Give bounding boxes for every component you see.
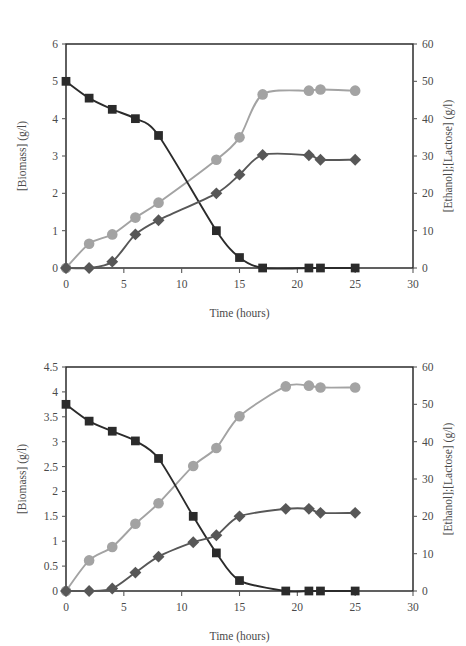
- y-axis-tick-label: 1.5: [44, 510, 59, 522]
- plot-frame: [66, 44, 413, 268]
- figure-root: 01234560102030405060051015202530Time (ho…: [0, 0, 466, 646]
- x-axis-tick-label: 10: [176, 601, 188, 613]
- data-point-circle: [107, 542, 118, 553]
- y2-axis-tick-label: 30: [422, 150, 434, 162]
- series-line: [66, 384, 355, 591]
- y-axis-tick-label: 5: [52, 75, 58, 87]
- data-point-circle: [84, 555, 95, 566]
- data-point-diamond: [315, 154, 327, 166]
- data-point-diamond: [257, 149, 269, 161]
- data-point-square: [85, 417, 94, 426]
- data-point-square: [281, 587, 290, 596]
- data-point-square: [258, 264, 267, 273]
- data-point-square: [108, 427, 117, 436]
- data-point-diamond: [315, 507, 327, 519]
- data-point-diamond: [187, 536, 199, 548]
- y2-axis-tick-label: 10: [422, 548, 434, 560]
- data-point-square: [235, 253, 244, 262]
- x-axis-tick-label: 20: [292, 601, 304, 613]
- data-point-circle: [315, 382, 326, 393]
- data-point-circle: [211, 443, 222, 454]
- series-line: [66, 154, 355, 269]
- y-axis-tick-label: 3.5: [44, 411, 59, 423]
- data-point-square: [212, 226, 221, 235]
- data-point-circle: [280, 381, 291, 392]
- y-axis-tick-label: 1: [52, 225, 58, 237]
- data-point-circle: [257, 89, 268, 100]
- y-axis-tick-label: 0.5: [44, 560, 59, 572]
- y2-axis-tick-label: 60: [422, 38, 434, 50]
- data-point-circle: [84, 238, 95, 249]
- y2-axis-tick-label: 20: [422, 510, 434, 522]
- data-point-diamond: [106, 583, 118, 595]
- data-point-square: [131, 114, 140, 123]
- data-point-circle: [107, 229, 118, 240]
- data-point-square: [316, 587, 325, 596]
- series-biomass: [60, 149, 361, 274]
- x-axis-tick-label: 0: [63, 601, 69, 613]
- y2-axis-tick-label: 0: [422, 262, 428, 274]
- data-point-diamond: [349, 154, 361, 166]
- y-axis-tick-label: 4: [52, 386, 58, 398]
- data-point-circle: [130, 212, 141, 223]
- chart-panel-top: 01234560102030405060051015202530Time (ho…: [0, 0, 466, 323]
- data-point-diamond: [349, 507, 361, 519]
- data-point-square: [131, 437, 140, 446]
- data-point-circle: [211, 154, 222, 165]
- y-axis-tick-label: 3: [52, 150, 58, 162]
- y2-axis-tick-label: 0: [422, 585, 428, 597]
- data-point-diamond: [153, 214, 165, 226]
- data-point-circle: [153, 197, 164, 208]
- plot-frame: [66, 367, 413, 591]
- x-axis-tick-label: 10: [176, 278, 188, 290]
- x-axis-tick-label: 5: [121, 278, 127, 290]
- y2-axis-title: [Ethanol];[Lactose] (g/l): [442, 99, 455, 212]
- x-axis-tick-label: 5: [121, 601, 127, 613]
- y2-axis-tick-label: 30: [422, 473, 434, 485]
- data-point-diamond: [210, 187, 222, 199]
- y2-axis-tick-label: 20: [422, 187, 434, 199]
- data-point-diamond: [280, 503, 292, 515]
- data-point-diamond: [83, 262, 95, 274]
- y-axis-tick-label: 2: [52, 485, 58, 497]
- y-axis-tick-label: 1: [52, 535, 58, 547]
- y-axis-tick-label: 4.5: [44, 361, 59, 373]
- series-lactose: [62, 400, 360, 595]
- data-point-square: [154, 454, 163, 463]
- y-axis-tick-label: 2: [52, 187, 58, 199]
- y-axis-title: [Biomass] (g/l): [16, 444, 29, 514]
- series-line: [66, 90, 355, 268]
- data-point-circle: [350, 85, 361, 96]
- chart-svg-bottom: 00.511.522.533.544.501020304050600510152…: [0, 323, 466, 646]
- y2-axis-tick-label: 60: [422, 361, 434, 373]
- data-point-circle: [130, 518, 141, 529]
- data-point-diamond: [83, 585, 95, 597]
- x-axis-tick-label: 30: [407, 278, 419, 290]
- y2-axis-title: [Ethanol];[Lactose] (g/l): [442, 422, 455, 535]
- y-axis-tick-label: 0: [52, 262, 58, 274]
- series-ethanol: [61, 84, 361, 273]
- data-point-square: [62, 77, 71, 86]
- x-axis-title: Time (hours): [210, 307, 270, 320]
- data-point-square: [235, 576, 244, 585]
- data-point-square: [108, 105, 117, 114]
- data-point-circle: [188, 461, 199, 472]
- data-point-circle: [315, 84, 326, 95]
- data-point-diamond: [303, 149, 315, 161]
- x-axis-tick-label: 30: [407, 601, 419, 613]
- data-point-diamond: [60, 585, 72, 597]
- data-point-circle: [304, 85, 315, 96]
- series-ethanol: [61, 380, 361, 596]
- y-axis-tick-label: 4: [52, 113, 58, 125]
- y-axis-title: [Biomass] (g/l): [16, 121, 29, 191]
- data-point-circle: [304, 380, 315, 391]
- chart-panel-bottom: 00.511.522.533.544.501020304050600510152…: [0, 323, 466, 646]
- series-lactose: [62, 77, 360, 272]
- data-point-diamond: [234, 510, 246, 522]
- series-biomass: [60, 503, 361, 597]
- data-point-circle: [234, 132, 245, 143]
- data-point-square: [351, 587, 360, 596]
- data-point-circle: [350, 382, 361, 393]
- x-axis-title: Time (hours): [210, 630, 270, 643]
- data-point-square: [351, 264, 360, 273]
